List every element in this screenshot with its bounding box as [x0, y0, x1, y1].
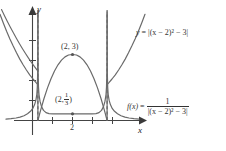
equation-abs-parabola: y = |(x − 2)² − 3|	[136, 29, 188, 37]
point-label-min-close: )	[69, 95, 72, 104]
x-axis-arrowhead	[139, 117, 147, 125]
point-min-dot	[71, 112, 74, 115]
math-figure: y x 2 (2, 3) (2,13) y = |(x − 2)² − 3| f…	[0, 0, 226, 151]
asymptotes	[38, 10, 107, 120]
equation-recip-numerator: 1	[147, 98, 189, 106]
plotted-curves	[0, 12, 145, 121]
x-axis-label: x	[138, 126, 142, 135]
equation-recip-fraction: 1 |(x − 2)² − 3|	[147, 98, 189, 117]
equation-recip-lhs: f(x)	[127, 103, 138, 111]
point-label-min: (2,13)	[55, 92, 72, 108]
equation-abs-rhs: |(x − 2)² − 3|	[148, 28, 188, 37]
equation-reciprocal: f(x) = 1 |(x − 2)² − 3|	[127, 98, 189, 117]
absparab-middle-hump	[38, 55, 107, 121]
equation-abs-equals: =	[142, 28, 147, 37]
y-axis-label: y	[37, 5, 41, 14]
y-axis-arrowhead	[29, 6, 37, 15]
equation-recip-denominator: |(x − 2)² − 3|	[147, 106, 189, 116]
graph-canvas	[0, 0, 226, 151]
equation-abs-lhs: y	[136, 28, 140, 37]
equation-recip-equals: =	[140, 103, 145, 111]
recip-center-hump	[38, 12, 107, 114]
x-tick-label-2: 2	[70, 124, 74, 132]
point-max-dot	[71, 53, 74, 56]
point-label-min-lead: (2,	[55, 95, 64, 104]
point-label-max: (2, 3)	[61, 43, 78, 51]
